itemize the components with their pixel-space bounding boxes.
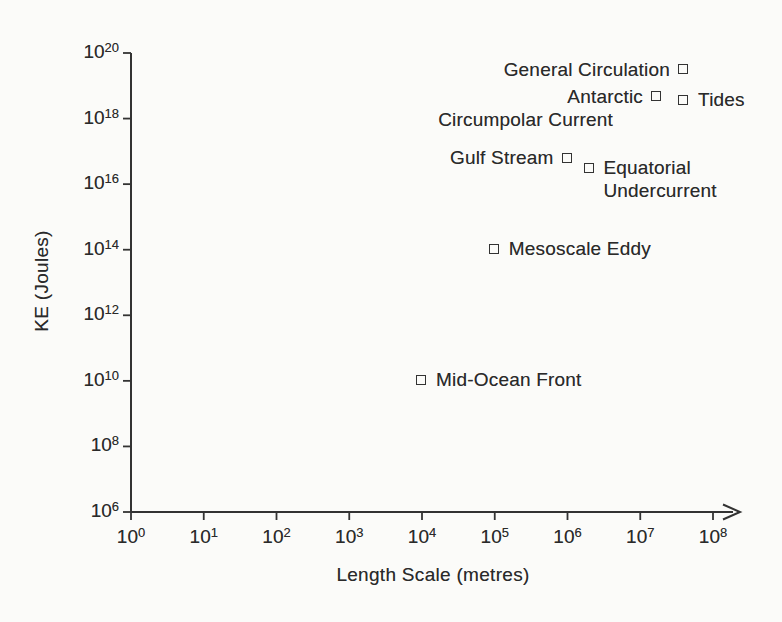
data-point-label-line: Tides: [698, 88, 745, 111]
data-point-label-line: General Circulation: [504, 58, 670, 81]
x-tick-label: 107: [626, 525, 654, 549]
x-tick-label: 106: [553, 525, 581, 549]
x-tick-label: 102: [262, 525, 290, 549]
data-point-label-line: Mid-Ocean Front: [436, 368, 582, 391]
data-point-label-line: Antarctic: [468, 85, 643, 108]
data-point-label: Gulf Stream: [450, 146, 554, 169]
y-tick-label: 1016: [83, 171, 119, 195]
data-point-label: Mesoscale Eddy: [509, 237, 651, 260]
data-point-marker: [678, 64, 688, 74]
data-point-marker: [651, 91, 661, 101]
data-point-label: AntarcticCircumpolar Current: [468, 85, 643, 131]
x-axis-title: Length Scale (metres): [336, 564, 529, 586]
x-tick-label: 104: [408, 525, 436, 549]
x-tick-label: 103: [335, 525, 363, 549]
data-point-label-line: Gulf Stream: [450, 146, 554, 169]
data-point-marker: [489, 244, 499, 254]
data-point-marker: [678, 95, 688, 105]
x-tick-label: 100: [117, 525, 145, 549]
data-point-label-line: Undercurrent: [603, 179, 716, 202]
data-point-label: Mid-Ocean Front: [436, 368, 582, 391]
data-point-label: EquatorialUndercurrent: [603, 156, 716, 202]
x-tick-label: 101: [190, 525, 218, 549]
data-point-label-line: Equatorial: [603, 156, 716, 179]
y-tick-label: 1010: [83, 368, 119, 392]
x-tick-label: 105: [481, 525, 509, 549]
y-tick-label: 1012: [83, 302, 119, 326]
ocean-kinetic-energy-scatter-figure: KE (Joules) Length Scale (metres) 106108…: [0, 0, 782, 622]
data-point-marker: [584, 163, 594, 173]
data-point-marker: [562, 153, 572, 163]
data-point-label-line: Mesoscale Eddy: [509, 237, 651, 260]
data-point-label-line: Circumpolar Current: [438, 108, 613, 131]
x-tick-label: 108: [699, 525, 727, 549]
data-point-marker: [416, 375, 426, 385]
data-point-label: Tides: [698, 88, 745, 111]
data-point-label: General Circulation: [504, 58, 670, 81]
y-tick-label: 1014: [83, 237, 119, 261]
y-tick-label: 1018: [83, 106, 119, 130]
y-tick-label: 1020: [83, 40, 119, 64]
y-tick-label: 106: [91, 499, 119, 523]
y-tick-label: 108: [91, 433, 119, 457]
y-axis-title: KE (Joules): [31, 230, 53, 332]
